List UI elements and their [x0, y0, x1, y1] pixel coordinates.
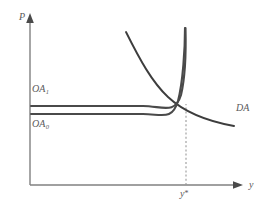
supply-curve-oa0-subscript: 0 [46, 123, 49, 130]
demand-curve-da [126, 32, 234, 126]
demand-curve-da-label: DA [236, 103, 249, 113]
diagram-canvas [0, 0, 267, 211]
equilibrium-output-star: * [184, 189, 188, 198]
supply-curve-oa1-subscript: 1 [46, 88, 49, 95]
x-axis-label: y [249, 180, 253, 190]
equilibrium-output-label: y* [180, 189, 188, 199]
supply-curve-oa0-base: OA [32, 118, 45, 129]
y-axis-label: P [19, 12, 25, 22]
supply-curve-oa0-label: OA0 [32, 119, 49, 129]
supply-curve-oa1-base: OA [32, 83, 45, 94]
economics-diagram: P y y* OA1 OA0 DA [0, 0, 267, 211]
supply-curve-oa1-label: OA1 [32, 84, 49, 94]
y-axis-arrowhead [26, 13, 34, 23]
supply-curve-oa0 [31, 28, 185, 115]
x-axis-arrowhead [233, 181, 243, 189]
supply-curve-oa1 [31, 28, 186, 108]
